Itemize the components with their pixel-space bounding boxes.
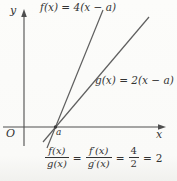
ratio-formula: f(x) g(x) = f′(x) g′(x) = 4 2 = 2 (45, 145, 162, 170)
equals-sign-3: = (143, 152, 152, 164)
numerator-4: 4 (129, 145, 139, 157)
a-point-label: a (56, 128, 61, 138)
equals-sign-2: = (116, 152, 125, 164)
denominator-2: 2 (129, 158, 139, 170)
x-axis-label: x (156, 129, 162, 141)
origin-label: O (6, 128, 15, 140)
y-axis-label: y (10, 5, 16, 17)
fraction-f-over-g: f(x) g(x) (45, 145, 69, 170)
denominator-g-prime: g′(x) (86, 158, 112, 170)
formula-result: 2 (156, 152, 163, 164)
denominator-g: g(x) (45, 158, 69, 170)
y-axis-arrowhead (21, 9, 27, 17)
math-figure: y f(x) = 4(x − a) g(x) = 2(x − a) O a x … (0, 0, 177, 181)
g-function-label: g(x) = 2(x − a) (95, 75, 174, 87)
fraction-4-over-2: 4 2 (129, 145, 139, 170)
fraction-fprime-over-gprime: f′(x) g′(x) (86, 145, 112, 170)
numerator-f: f(x) (46, 145, 67, 157)
f-function-label: f(x) = 4(x − a) (40, 2, 116, 14)
numerator-f-prime: f′(x) (87, 145, 110, 157)
equals-sign-1: = (73, 152, 82, 164)
